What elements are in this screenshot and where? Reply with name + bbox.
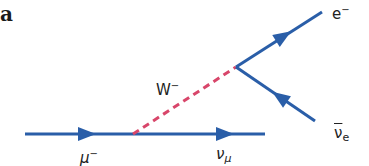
- label-muon-neutrino: νμ: [216, 146, 231, 166]
- label-w-boson: W−: [156, 78, 179, 98]
- label-electron-antineutrino: νe: [334, 125, 349, 146]
- arrow-right-icon: [78, 127, 96, 141]
- arrow-up-right-icon: [272, 25, 295, 46]
- feynman-diagram: [0, 0, 369, 166]
- arrow-up-left-icon: [268, 86, 291, 108]
- label-electron: e−: [332, 2, 350, 22]
- boson-line-w: [133, 67, 236, 134]
- arrow-right-icon: [216, 127, 234, 141]
- label-muon: μ−: [80, 146, 98, 166]
